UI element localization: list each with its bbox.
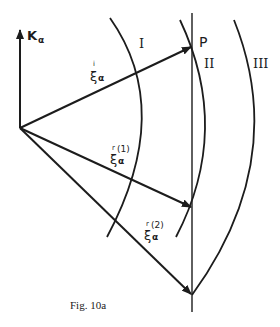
svg-text:ξ: ξ xyxy=(144,228,151,243)
region-label-II: II xyxy=(204,56,214,71)
svg-text:r: r xyxy=(112,144,115,152)
region-label-III: III xyxy=(253,56,268,71)
figure-caption: Fig. 10a xyxy=(70,299,106,311)
point-P-label: P xyxy=(199,34,207,50)
arc-I xyxy=(107,18,142,237)
diagram-canvas: Kα I II III P i ξ α r (1) ξ α r (2) ξ α … xyxy=(0,0,280,327)
svg-text:ξ: ξ xyxy=(110,152,117,167)
vector-label-incident: i ξ α xyxy=(90,60,104,84)
svg-text:α: α xyxy=(98,73,104,83)
svg-text:(1): (1) xyxy=(117,144,130,154)
vector-reflected-1 xyxy=(20,128,191,207)
vector-label-reflected-2: r (2) ξ α xyxy=(144,220,164,243)
k-axis-label: Kα xyxy=(27,28,44,45)
vector-reflected-2 xyxy=(20,128,191,294)
arc-III xyxy=(192,20,254,295)
svg-text:α: α xyxy=(152,232,158,242)
vector-incident xyxy=(20,47,191,128)
svg-text:α: α xyxy=(118,156,124,166)
svg-text:(2): (2) xyxy=(151,220,164,230)
svg-text:i: i xyxy=(93,60,95,68)
vector-label-reflected-1: r (1) ξ α xyxy=(110,144,130,167)
region-label-I: I xyxy=(139,36,144,51)
svg-text:ξ: ξ xyxy=(90,69,97,84)
svg-text:r: r xyxy=(146,220,149,228)
